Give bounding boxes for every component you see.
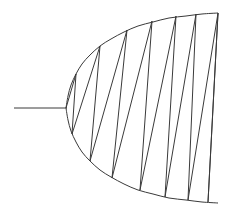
parabola-zigzag-diagram [0,0,234,219]
canvas-background [0,0,234,219]
figure-container [0,0,234,219]
